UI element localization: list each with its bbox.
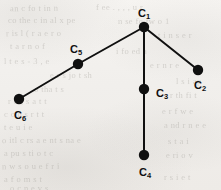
graph-node-C5[interactable] [73,59,83,69]
node-label-base: C [138,7,146,19]
node-label-subscript: 2 [202,84,206,93]
node-label-subscript: 5 [78,48,82,57]
graph-node-C2[interactable] [193,65,203,75]
node-label-C2: C2 [194,80,206,91]
node-label-subscript: 4 [147,171,151,180]
node-label-subscript: 1 [146,12,150,21]
edge-layer [19,27,198,155]
node-label-base: C [156,87,164,99]
node-label-base: C [14,109,22,121]
node-label-subscript: 3 [164,92,168,101]
graph-edge-C1-C5 [78,27,144,64]
graph-node-C6[interactable] [14,94,24,104]
node-layer [14,22,203,160]
node-label-C4: C4 [139,167,151,178]
figure-canvas: an c fo t in nf ee . , , , u rco the c i… [0,0,221,190]
node-label-subscript: 6 [22,114,26,123]
node-label-base: C [70,43,78,55]
graph-node-C3[interactable] [139,84,149,94]
node-label-C1: C1 [138,8,150,19]
node-label-C5: C5 [70,44,82,55]
graph-node-C4[interactable] [139,150,149,160]
graph-edge-C5-C6 [19,64,78,99]
node-label-C3: C3 [156,88,168,99]
node-label-C6: C6 [14,110,26,121]
node-label-base: C [139,166,147,178]
graph-diagram [0,0,221,190]
graph-edge-C1-C2 [144,27,198,70]
graph-node-C1[interactable] [139,22,149,32]
node-label-base: C [194,79,202,91]
